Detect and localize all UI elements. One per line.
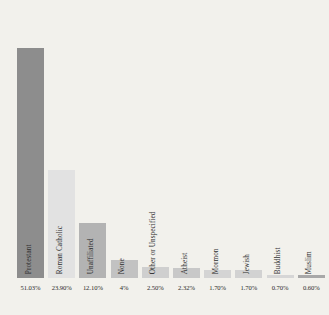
category-label: Other or Unspecified [148, 215, 155, 278]
bar[interactable] [267, 275, 294, 278]
category-label-text: Muslim [307, 251, 314, 274]
value-label: 2.32% [171, 285, 203, 292]
bar-slot: Unaffiliated [79, 223, 106, 278]
bar-slot: Buddhist [267, 275, 294, 278]
bar-slot: Other or Unspecified [142, 267, 169, 278]
category-label-text: Unaffiliated [88, 238, 95, 274]
category-label: Buddhist [273, 251, 280, 278]
bar-slot: Atheist [173, 268, 200, 278]
value-label: 23.90% [46, 285, 78, 292]
bar-slot: Protestant [17, 48, 44, 278]
category-label-text: Other or Unspecified [151, 211, 158, 274]
category-label: Jewish [242, 258, 249, 278]
value-label: 1.70% [233, 285, 265, 292]
bar-slot: Roman Catholic [48, 170, 75, 278]
plot-area: Protestant Roman Catholic Unaffiliated N… [0, 0, 329, 315]
value-label: 2.50% [139, 285, 171, 292]
bar-slot: Muslim [298, 275, 325, 278]
category-label-text: Roman Catholic [57, 226, 64, 274]
category-label: Atheist [179, 257, 186, 278]
category-label-text: None [119, 258, 126, 274]
bar-chart: Protestant Roman Catholic Unaffiliated N… [0, 0, 329, 315]
value-label: 51.03% [15, 285, 47, 292]
category-label-text: Buddhist [275, 247, 282, 274]
category-label: Roman Catholic [54, 230, 61, 278]
category-label-text: Jewish [244, 254, 251, 274]
category-label-text: Atheist [182, 253, 189, 274]
bar[interactable] [298, 275, 325, 278]
value-label: 1.70% [202, 285, 234, 292]
category-label-text: Protestant [26, 244, 33, 274]
value-label: 0.70% [264, 285, 296, 292]
bar-slot: Jewish [235, 270, 262, 278]
bar-slot: Mormon [204, 270, 231, 278]
value-label: 12.10% [77, 285, 109, 292]
value-label: 0.60% [295, 285, 327, 292]
category-label-text: Mormon [213, 248, 220, 274]
category-label: Mormon [210, 252, 217, 278]
value-label: 4% [108, 285, 140, 292]
category-label: Unaffiliated [86, 242, 93, 278]
bar-slot: None [111, 260, 138, 278]
category-label: None [117, 262, 124, 278]
category-label: Muslim [304, 255, 311, 278]
category-label: Protestant [23, 248, 30, 278]
